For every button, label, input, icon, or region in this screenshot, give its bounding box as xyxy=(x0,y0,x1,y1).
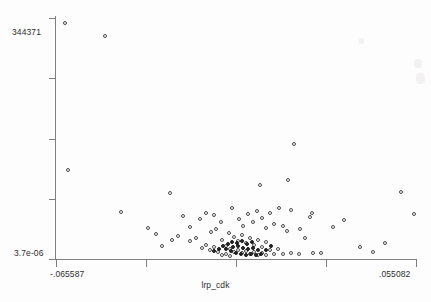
data-point xyxy=(241,246,245,250)
data-point xyxy=(224,247,228,251)
data-point xyxy=(289,251,293,255)
data-point xyxy=(276,247,280,251)
data-point xyxy=(358,245,362,249)
data-point xyxy=(256,248,260,252)
x-axis-label-min: -.065587 xyxy=(50,269,84,279)
data-point xyxy=(399,190,403,194)
data-point xyxy=(250,240,254,244)
data-point xyxy=(289,208,293,212)
data-point xyxy=(412,212,416,216)
data-point xyxy=(212,213,216,217)
data-point xyxy=(269,244,273,248)
data-point xyxy=(272,252,276,256)
data-point xyxy=(240,239,244,243)
data-point xyxy=(239,252,243,256)
data-point xyxy=(259,252,263,256)
data-point xyxy=(214,227,218,231)
data-point xyxy=(264,240,268,244)
data-point xyxy=(310,211,314,215)
data-point xyxy=(371,250,375,254)
data-point xyxy=(298,227,302,231)
data-point xyxy=(292,142,296,146)
data-point xyxy=(119,210,123,214)
data-point xyxy=(272,222,276,226)
data-point xyxy=(254,253,258,257)
y-axis-label-max: 344371 xyxy=(12,27,41,37)
data-point xyxy=(168,191,172,195)
data-point xyxy=(66,168,70,172)
data-point xyxy=(255,209,259,213)
data-point xyxy=(221,244,225,248)
data-point xyxy=(246,247,250,251)
data-point xyxy=(231,245,235,249)
data-point xyxy=(281,252,285,256)
plot-area xyxy=(56,18,416,258)
data-point xyxy=(198,217,202,221)
data-point xyxy=(176,234,180,238)
data-point xyxy=(227,231,231,235)
data-point xyxy=(383,241,387,245)
data-point xyxy=(232,235,236,239)
data-point xyxy=(331,225,335,229)
data-point xyxy=(237,217,241,221)
data-point xyxy=(286,178,290,182)
data-point xyxy=(264,226,268,230)
data-point xyxy=(63,21,67,25)
scatter-plot-screenshot: 344371 3.7e-06 -.065587 .055082 lrp_cdk xyxy=(0,0,431,302)
data-point xyxy=(303,236,307,240)
data-point xyxy=(297,252,301,256)
y-axis-tick xyxy=(49,199,56,200)
data-point xyxy=(241,224,245,228)
y-axis-tick xyxy=(49,18,56,19)
data-point xyxy=(240,233,244,237)
x-axis-tick xyxy=(146,260,147,267)
y-axis-tick xyxy=(49,78,56,79)
data-point xyxy=(264,253,268,257)
x-axis-title: lrp_cdk xyxy=(0,280,431,290)
data-point xyxy=(281,224,285,228)
data-point xyxy=(256,238,260,242)
data-point xyxy=(251,220,255,224)
data-point xyxy=(268,248,272,252)
data-point xyxy=(244,253,248,257)
data-point xyxy=(188,225,192,229)
data-point xyxy=(200,246,204,250)
data-point xyxy=(258,183,262,187)
x-axis-tick xyxy=(236,260,237,267)
data-point xyxy=(268,211,272,215)
scan-artifact-smudge xyxy=(416,73,425,84)
data-point xyxy=(308,215,312,219)
data-point xyxy=(235,241,239,245)
data-point xyxy=(160,244,164,248)
data-point xyxy=(228,254,232,258)
data-point xyxy=(204,243,208,247)
x-axis-tick xyxy=(416,260,417,267)
x-axis-tick xyxy=(56,260,57,267)
data-point xyxy=(264,248,268,252)
data-point xyxy=(103,34,107,38)
data-point xyxy=(249,252,253,256)
data-point xyxy=(204,211,208,215)
data-point xyxy=(181,214,185,218)
data-point xyxy=(230,240,234,244)
data-point xyxy=(170,238,174,242)
data-point xyxy=(342,218,346,222)
data-point xyxy=(188,239,192,243)
y-axis-label-min: 3.7e-06 xyxy=(14,248,44,258)
data-point xyxy=(277,206,281,210)
data-point xyxy=(229,249,233,253)
data-point xyxy=(245,242,249,246)
data-point xyxy=(234,251,238,255)
data-point xyxy=(311,251,315,255)
data-point xyxy=(251,246,255,250)
data-point xyxy=(230,206,234,210)
data-point xyxy=(285,229,289,233)
data-point xyxy=(154,232,158,236)
x-axis-tick xyxy=(326,260,327,267)
data-point xyxy=(146,226,150,230)
data-point xyxy=(246,212,250,216)
data-point xyxy=(194,236,198,240)
data-point xyxy=(319,251,323,255)
data-point xyxy=(212,249,216,253)
y-axis-tick xyxy=(49,139,56,140)
